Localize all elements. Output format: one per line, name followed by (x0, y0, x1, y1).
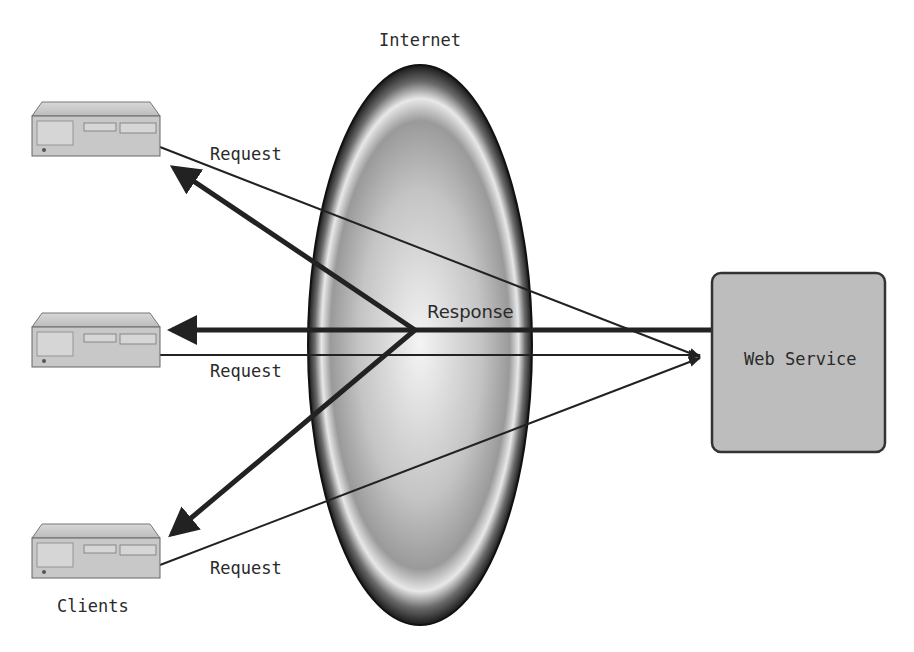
internet-label: Internet (379, 30, 461, 50)
client-device-icon (32, 524, 160, 578)
client-device-icon (32, 313, 160, 367)
response-label: Response (427, 301, 513, 322)
request-label-bottom: Request (210, 558, 282, 578)
web-service-label: Web Service (744, 349, 857, 369)
clients-caption: Clients (57, 596, 129, 616)
internet-cloud-icon (308, 65, 532, 625)
request-label-top: Request (210, 144, 282, 164)
diagram-canvas (0, 0, 914, 652)
client-device-icon (32, 102, 160, 156)
request-label-middle: Request (210, 361, 282, 381)
